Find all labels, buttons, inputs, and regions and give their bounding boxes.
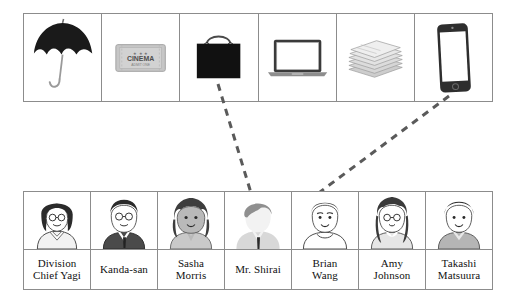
- person-name-yagi: Division Chief Yagi: [24, 250, 90, 289]
- newspapers-icon: [337, 14, 414, 101]
- people-row: Division Chief Yagi Kanda-san: [23, 191, 493, 290]
- smartphone-icon: [415, 14, 492, 101]
- item-cell-smartphone[interactable]: [415, 14, 492, 101]
- avatar-sasha: [158, 192, 224, 250]
- person-cell-sasha[interactable]: Sasha Morris: [158, 192, 225, 289]
- person-name-shirai: Mr. Shirai: [225, 250, 291, 289]
- laptop-icon: [259, 14, 336, 101]
- items-row: ★ ★ ★ CINEMA ADMIT ONE: [23, 13, 493, 102]
- person-cell-shirai[interactable]: Mr. Shirai: [225, 192, 292, 289]
- person-name-kanda: Kanda-san: [91, 250, 157, 289]
- person-name-amy: Amy Johnson: [359, 250, 425, 289]
- item-cell-bag[interactable]: [180, 14, 258, 101]
- item-cell-newspapers[interactable]: [337, 14, 415, 101]
- item-cell-laptop[interactable]: [259, 14, 337, 101]
- avatar-amy: [359, 192, 425, 250]
- connector-smartphone-to-brian: [320, 96, 449, 192]
- person-cell-brian[interactable]: Brian Wang: [292, 192, 359, 289]
- avatar-shirai: [225, 192, 291, 250]
- ticket-subtitle: ADMIT ONE: [131, 63, 150, 67]
- ticket-title: CINEMA: [127, 55, 154, 62]
- diagram-stage: ★ ★ ★ CINEMA ADMIT ONE: [0, 0, 516, 301]
- person-cell-yagi[interactable]: Division Chief Yagi: [24, 192, 91, 289]
- handbag-icon: [180, 14, 257, 101]
- item-cell-ticket[interactable]: ★ ★ ★ CINEMA ADMIT ONE: [102, 14, 180, 101]
- avatar-yagi: [24, 192, 90, 250]
- person-cell-kanda[interactable]: Kanda-san: [91, 192, 158, 289]
- ticket-icon: ★ ★ ★ CINEMA ADMIT ONE: [102, 14, 179, 101]
- avatar-brian: [292, 192, 358, 250]
- person-name-brian: Brian Wang: [292, 250, 358, 289]
- person-cell-amy[interactable]: Amy Johnson: [359, 192, 426, 289]
- avatar-kanda: [91, 192, 157, 250]
- avatar-takashi: [426, 192, 492, 250]
- person-name-takashi: Takashi Matsuura: [426, 250, 492, 289]
- umbrella-icon: [24, 14, 101, 101]
- item-cell-umbrella[interactable]: [24, 14, 102, 101]
- person-name-sasha: Sasha Morris: [158, 250, 224, 289]
- person-cell-takashi[interactable]: Takashi Matsuura: [426, 192, 492, 289]
